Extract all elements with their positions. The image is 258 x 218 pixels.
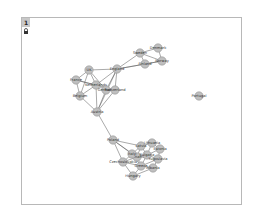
graph-node[interactable]: Norway (155, 57, 170, 65)
node-label: Belgium (73, 94, 88, 98)
node-label: Sweden (133, 51, 147, 55)
node-label: France (70, 78, 83, 82)
graph-node[interactable]: Sweden (133, 49, 147, 57)
graph-node[interactable]: Denmark (150, 44, 167, 52)
node-label: Norway (155, 59, 170, 63)
graph-node[interactable]: Albania (146, 164, 159, 172)
graph-node[interactable]: Hungary (125, 172, 141, 180)
graph-node[interactable]: England (110, 65, 125, 73)
network-graph: DenmarkSwedenNorwayFinlandEnglandUKFranc… (0, 0, 258, 218)
node-label: UK (87, 68, 93, 72)
graph-node[interactable]: Austria (91, 108, 104, 116)
node-label: Portugal (192, 94, 207, 98)
node-label: Estonia (153, 147, 166, 151)
node-label: Yugoslavia (149, 157, 168, 161)
graph-node[interactable]: Belgium (73, 92, 88, 100)
node-label: England (110, 67, 125, 71)
node-label: Switzerland (105, 88, 126, 92)
node-label: Hungary (125, 174, 141, 178)
graph-edge (97, 112, 113, 140)
graph-node[interactable]: Portugal (192, 92, 207, 100)
node-label: Austria (91, 110, 104, 114)
graph-node[interactable]: Estonia (153, 145, 166, 153)
graph-node[interactable]: France (70, 76, 83, 84)
node-label: Poland (107, 138, 119, 142)
node-label: Denmark (150, 46, 167, 50)
node-label: Finland (139, 62, 152, 66)
node-label: Czechoslovakia (109, 160, 137, 164)
node-label: Latvia (136, 144, 147, 148)
graph-node[interactable]: UK (85, 66, 93, 74)
node-label: Albania (146, 166, 159, 170)
node-label: Italy (128, 152, 137, 156)
graph-node[interactable]: Finland (139, 60, 152, 68)
